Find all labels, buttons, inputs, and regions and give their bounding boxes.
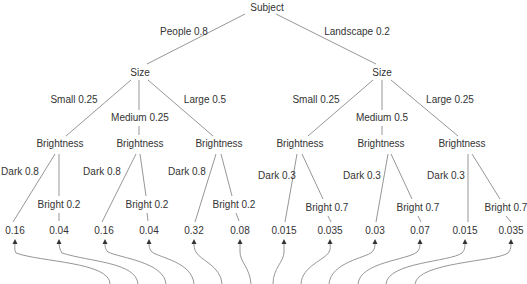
edge-label-large-left: Large 0.5 xyxy=(184,94,226,106)
edge-label-medium-left: Medium 0.25 xyxy=(111,112,169,124)
arrow-curve-9 xyxy=(329,242,375,284)
edge-label-bright-2: Bright 0.2 xyxy=(126,199,169,211)
edge-label-landscape: Landscape 0.2 xyxy=(324,26,390,38)
arrow-curve-4 xyxy=(149,242,194,284)
edge-b4-bright-bottom xyxy=(328,216,331,222)
edge-b6-bright-top xyxy=(472,154,500,199)
edge-b5-bright-top xyxy=(391,154,412,199)
edge-label-dark-4: Dark 0.3 xyxy=(258,170,296,182)
edge-b5-dark xyxy=(376,154,388,222)
edge-label-dark-3: Dark 0.8 xyxy=(168,166,206,178)
arrowhead-9 xyxy=(373,239,378,244)
edge-b3-bright-bottom xyxy=(236,213,239,221)
arrow-curve-1 xyxy=(15,242,110,284)
edge-people xyxy=(147,14,245,64)
arrow-curve-7 xyxy=(273,242,284,284)
edge-right-large xyxy=(391,80,458,136)
leaf-value-3: 0.16 xyxy=(94,225,113,237)
edge-b4-dark xyxy=(285,154,297,222)
edge-left-small xyxy=(66,80,131,136)
edge-left-large xyxy=(148,80,213,136)
edge-label-dark-6: Dark 0.3 xyxy=(427,170,465,182)
edge-b5-bright-bottom xyxy=(418,216,421,222)
leaf-value-9: 0.03 xyxy=(365,225,384,237)
arrowhead-1 xyxy=(13,239,18,244)
leaf-value-5: 0.32 xyxy=(184,225,203,237)
node-brightness-5: Brightness xyxy=(357,138,404,150)
arrow-curve-11 xyxy=(386,242,465,284)
arrowhead-11 xyxy=(463,239,468,244)
edge-label-bright-5: Bright 0.7 xyxy=(397,202,440,214)
arrowhead-5 xyxy=(192,239,197,244)
leaf-value-10: 0.07 xyxy=(410,225,429,237)
edge-b2-bright-top xyxy=(140,154,146,196)
arrowhead-12 xyxy=(509,239,514,244)
node-brightness-1: Brightness xyxy=(36,138,83,150)
arrowhead-2 xyxy=(57,239,62,244)
edge-label-bright-3: Bright 0.2 xyxy=(213,199,256,211)
edge-b3-bright-top xyxy=(221,154,232,196)
node-brightness-6: Brightness xyxy=(438,138,485,150)
root-node-subject: Subject xyxy=(250,2,283,14)
edge-landscape xyxy=(276,14,376,64)
edge-b4-bright-top xyxy=(302,154,323,199)
edge-label-small-right: Small 0.25 xyxy=(292,94,339,106)
edge-label-bright-6: Bright 0.7 xyxy=(485,202,527,214)
arrowhead-10 xyxy=(418,239,423,244)
arrowhead-8 xyxy=(328,239,333,244)
probability-tree-diagram: Subject People 0.8 Landscape 0.2 Size Si… xyxy=(0,0,527,284)
edge-label-bright-4: Bright 0.7 xyxy=(306,202,349,214)
leaf-value-4: 0.04 xyxy=(139,225,158,237)
edge-label-medium-right: Medium 0.5 xyxy=(356,112,408,124)
edge-label-people: People 0.8 xyxy=(160,26,208,38)
leaf-value-8: 0.035 xyxy=(317,225,342,237)
edge-label-dark-5: Dark 0.3 xyxy=(343,170,381,182)
leaf-value-7: 0.015 xyxy=(271,225,296,237)
node-brightness-2: Brightness xyxy=(116,138,163,150)
edge-b2-dark xyxy=(102,154,136,222)
node-brightness-3: Brightness xyxy=(195,138,242,150)
node-brightness-4: Brightness xyxy=(276,138,323,150)
edge-b2-bright-bottom xyxy=(147,213,148,221)
leaf-value-2: 0.04 xyxy=(49,225,68,237)
leaf-value-6: 0.08 xyxy=(230,225,249,237)
edge-label-bright-1: Bright 0.2 xyxy=(38,199,81,211)
edge-b1-dark xyxy=(13,154,55,222)
arrowhead-3 xyxy=(103,239,108,244)
arrow-curve-6 xyxy=(240,242,251,284)
edge-b3-dark xyxy=(195,154,216,222)
edge-label-dark-2: Dark 0.8 xyxy=(83,166,121,178)
node-size-landscape: Size xyxy=(372,67,391,79)
leaf-value-12: 0.035 xyxy=(498,225,523,237)
leaf-value-1: 0.16 xyxy=(5,225,24,237)
node-size-people: Size xyxy=(130,67,149,79)
arrow-curve-8 xyxy=(301,242,330,284)
edge-right-small xyxy=(308,80,373,136)
edge-b6-bright-bottom xyxy=(506,216,511,222)
arrowhead-6 xyxy=(238,239,243,244)
leaf-value-11: 0.015 xyxy=(452,225,477,237)
arrow-curve-12 xyxy=(415,242,511,284)
edge-label-small-left: Small 0.25 xyxy=(50,94,97,106)
edge-label-large-right: Large 0.25 xyxy=(426,94,474,106)
arrow-curve-5 xyxy=(194,242,222,284)
arrowhead-7 xyxy=(282,239,287,244)
arrow-curve-2 xyxy=(59,242,138,284)
arrowhead-4 xyxy=(147,239,152,244)
edge-label-dark-1: Dark 0.8 xyxy=(1,166,39,178)
